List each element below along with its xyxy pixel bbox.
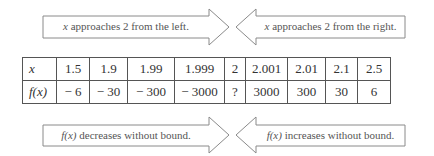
cell: 2.5: [358, 58, 391, 81]
cell: 2.1: [326, 58, 358, 81]
values-table: x 1.5 1.9 1.99 1.999 2 2.001 2.01 2.1 2.…: [22, 57, 391, 104]
arrow-label-decreases: f(x) decreases without bound.: [43, 129, 209, 141]
cell: 6: [358, 81, 391, 104]
cell: 2.01: [288, 58, 326, 81]
var-fx: f(x): [61, 129, 76, 141]
cell: 1.99: [128, 58, 175, 81]
cell: 1.5: [57, 58, 90, 81]
cell: 3000: [246, 81, 288, 104]
cell: 2.001: [246, 58, 288, 81]
cell: 30: [326, 81, 358, 104]
arrow-label-right: x approaches 2 from the right.: [256, 20, 405, 32]
arrow-label-increases: f(x) increases without bound.: [256, 129, 405, 141]
table-row-fx: f(x) − 6 − 30 − 300 − 3000 ? 3000 300 30…: [23, 81, 391, 104]
arrow-bound-pair: f(x) decreases without bound. f(x) incre…: [0, 108, 434, 156]
row-header-x: x: [23, 58, 57, 81]
arrow-label-left: x approaches 2 from the left.: [43, 20, 209, 32]
var-fx: f(x): [267, 129, 282, 141]
cell: − 30: [90, 81, 128, 104]
arrow-approach-left: x approaches 2 from the left. x approach…: [0, 0, 434, 52]
cell: − 300: [128, 81, 175, 104]
cell: ?: [225, 81, 246, 104]
cell: 2: [225, 58, 246, 81]
cell: 1.999: [175, 58, 225, 81]
table-row-x: x 1.5 1.9 1.99 1.999 2 2.001 2.01 2.1 2.…: [23, 58, 391, 81]
cell: 1.9: [90, 58, 128, 81]
row-header-fx: f(x): [23, 81, 57, 104]
cell: − 6: [57, 81, 90, 104]
cell: 300: [288, 81, 326, 104]
cell: − 3000: [175, 81, 225, 104]
